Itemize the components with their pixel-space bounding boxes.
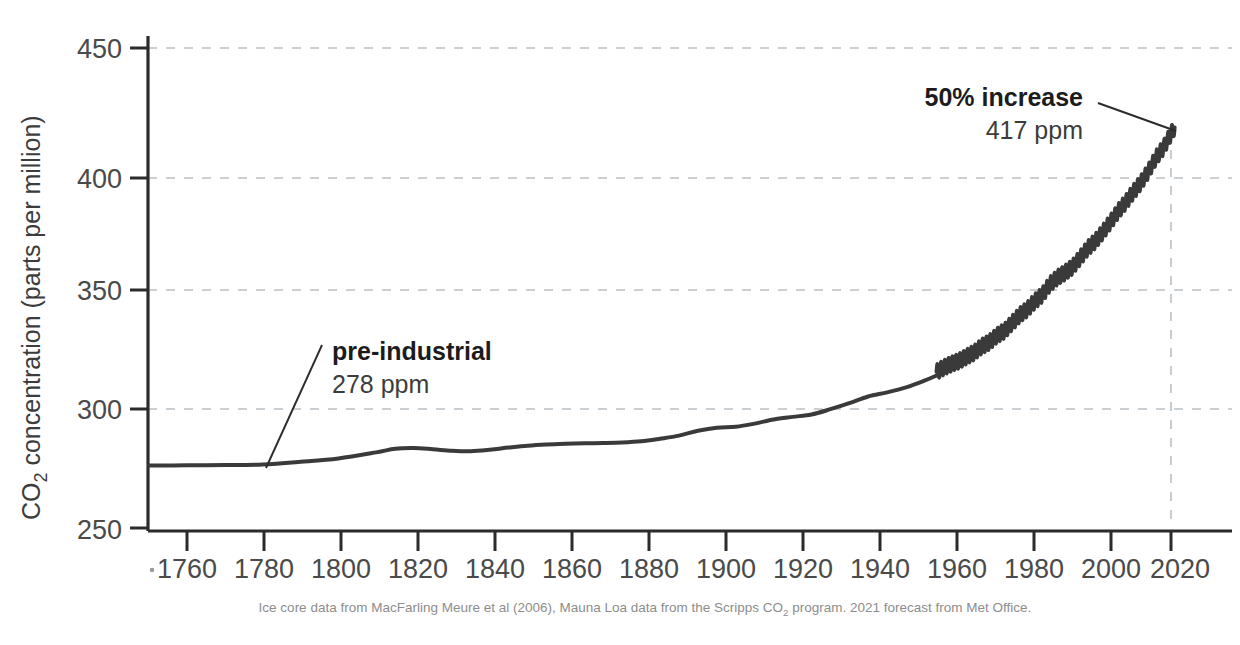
series-ice-core-line [149, 376, 936, 466]
x-axis-ticks [187, 531, 1171, 551]
pre-industrial-annotation-value: 278 ppm [332, 370, 429, 398]
y-axis-title-post: concentration (parts per million) [17, 115, 45, 472]
x-tick-label-1860: 1860 [542, 554, 602, 584]
x-tick-label-1840: 1840 [465, 554, 525, 584]
y-axis-ticks [130, 48, 148, 528]
y-tick-label-450: 450 [77, 34, 122, 64]
series-mauna-loa-line [936, 125, 1174, 378]
y-tick-label-350: 350 [77, 276, 122, 306]
fifty-percent-annotation-value: 417 ppm [986, 116, 1083, 144]
chart-footnote: Ice core data from MacFarling Meure et a… [259, 600, 1032, 618]
x-tick-label-2000: 2000 [1081, 554, 1141, 584]
y-tick-label-250: 250 [77, 515, 122, 545]
x-tick-label-1960: 1960 [927, 554, 987, 584]
x-tick-label-1920: 1920 [773, 554, 833, 584]
footnote-part-a: Ice core data from MacFarling Meure et a… [259, 600, 784, 615]
axis-origin-dot [150, 568, 155, 573]
fifty-percent-annotation-title: 50% increase [925, 83, 1084, 111]
x-tick-label-1900: 1900 [696, 554, 756, 584]
pre-industrial-annotation-title: pre-industrial [332, 337, 492, 365]
x-tick-label-1780: 1780 [234, 554, 294, 584]
y-axis-title: CO2 concentration (parts per million) [17, 115, 51, 520]
y-tick-label-400: 400 [77, 164, 122, 194]
x-tick-label-1880: 1880 [619, 554, 679, 584]
y-axis-title-pre: CO [17, 483, 45, 521]
y-axis-title-subscript: 2 [31, 472, 51, 482]
y-tick-label-300: 300 [77, 395, 122, 425]
chart-canvas: 450 400 350 300 250 1760 1780 1800 1820 … [0, 0, 1240, 645]
x-tick-label-1940: 1940 [850, 554, 910, 584]
x-tick-label-2020: 2020 [1150, 554, 1210, 584]
x-tick-label-1800: 1800 [311, 554, 371, 584]
x-tick-label-1820: 1820 [388, 554, 448, 584]
footnote-part-b: program. 2021 forecast from Met Office. [789, 600, 1032, 615]
fifty-percent-leader-line [1098, 103, 1176, 131]
co2-concentration-chart: 450 400 350 300 250 1760 1780 1800 1820 … [0, 0, 1240, 645]
x-tick-label-1760: 1760 [157, 554, 217, 584]
pre-industrial-leader-line [266, 345, 322, 468]
x-tick-label-1980: 1980 [1004, 554, 1064, 584]
